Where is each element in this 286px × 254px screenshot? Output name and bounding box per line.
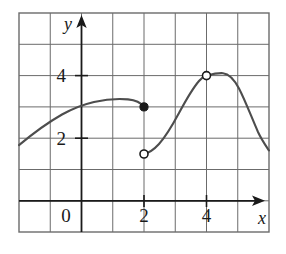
graph-canvas: 4 2 0 2 4 y x [0, 0, 286, 254]
closed-point-marker [140, 103, 148, 111]
x-axis-label: x [257, 208, 266, 228]
x-tick-label-0: 0 [61, 205, 71, 226]
open-point-marker-lower [140, 150, 148, 158]
open-point-marker-peak [203, 72, 211, 80]
y-tick-label-4: 4 [57, 65, 67, 86]
x-tick-label-2: 2 [139, 205, 149, 226]
y-axis-label: y [62, 14, 72, 34]
function-graph-figure: 4 2 0 2 4 y x [0, 0, 286, 254]
x-tick-label-4: 4 [202, 205, 212, 226]
y-tick-label-2: 2 [57, 128, 67, 149]
